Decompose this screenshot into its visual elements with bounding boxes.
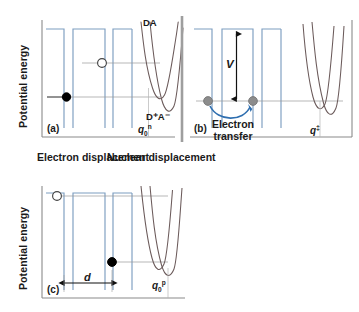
q-label-panel-a: q0n: [138, 124, 152, 138]
coupling-label-v: V: [226, 59, 234, 71]
transfer-line-2: transfer: [213, 130, 252, 142]
electron-transfer-label: Electron transfer: [196, 118, 270, 142]
q-sup: n: [148, 123, 152, 130]
figure-electron-transfer: Potential energy Potential energy Electr…: [0, 0, 359, 312]
distance-label-d: d: [84, 272, 91, 283]
y-axis-label-bottom: Potential energy: [18, 207, 29, 290]
q-sub: 0: [158, 286, 162, 293]
panel-label-c: (c): [47, 285, 59, 295]
q-sub: 0: [144, 130, 148, 137]
q-sup: ‡: [316, 124, 320, 131]
y-axis-label-top: Potential energy: [18, 45, 29, 128]
q-label-panel-c: q0p: [152, 280, 166, 294]
panel-label-a: (a): [47, 124, 59, 134]
q-label-panel-b: q‡: [310, 124, 320, 136]
x-axis-label-electron: Electron displacement: [37, 152, 111, 163]
curve-label-d-plus-a-minus: D⁺A⁻: [146, 112, 170, 122]
transfer-line-1: Electron: [212, 118, 254, 130]
q-sup: p: [162, 279, 166, 286]
x-axis-label-nuclear: Nuclear displacement: [107, 152, 187, 163]
curve-label-da: DA: [143, 18, 157, 28]
